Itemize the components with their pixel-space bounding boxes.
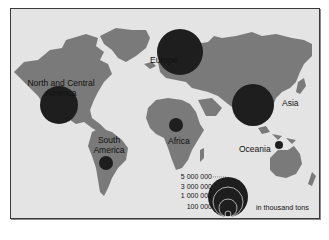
bubble-europe <box>157 29 203 75</box>
bubble-asia <box>232 84 274 126</box>
label-europe: Europe <box>150 55 177 65</box>
australia-land <box>270 146 302 178</box>
label-oceania: Oceania <box>239 144 271 154</box>
label-south-america: South America <box>90 135 128 155</box>
greenland-land <box>100 28 150 62</box>
legend-value-1000000: 1 000 000 <box>162 192 212 199</box>
bubble-oceania <box>275 141 283 149</box>
label-line: America <box>90 145 128 155</box>
label-line: North and Central <box>14 78 108 88</box>
bubble-south-america <box>99 156 113 170</box>
label-north-and-central-america: North and Central America <box>14 78 108 98</box>
arabia-land <box>198 98 222 116</box>
indonesia-land <box>258 126 296 144</box>
bubble-africa <box>169 118 183 132</box>
label-line: South <box>90 135 128 145</box>
legend-value-5000000: 5 000 000 <box>162 173 212 180</box>
legend-value-100000: 100 000 <box>162 203 212 210</box>
japan-land <box>296 78 306 94</box>
africa-land <box>146 98 204 170</box>
legend-value-3000000: 3 000 000 <box>162 183 212 190</box>
label-line: America <box>14 88 108 98</box>
label-africa: Africa <box>168 136 190 146</box>
legend-unit: in thousand tons <box>256 203 309 212</box>
madagascar-land <box>200 148 204 162</box>
new-zealand-land <box>308 172 316 186</box>
legend-bubbles <box>208 177 248 217</box>
label-asia: Asia <box>282 98 299 108</box>
